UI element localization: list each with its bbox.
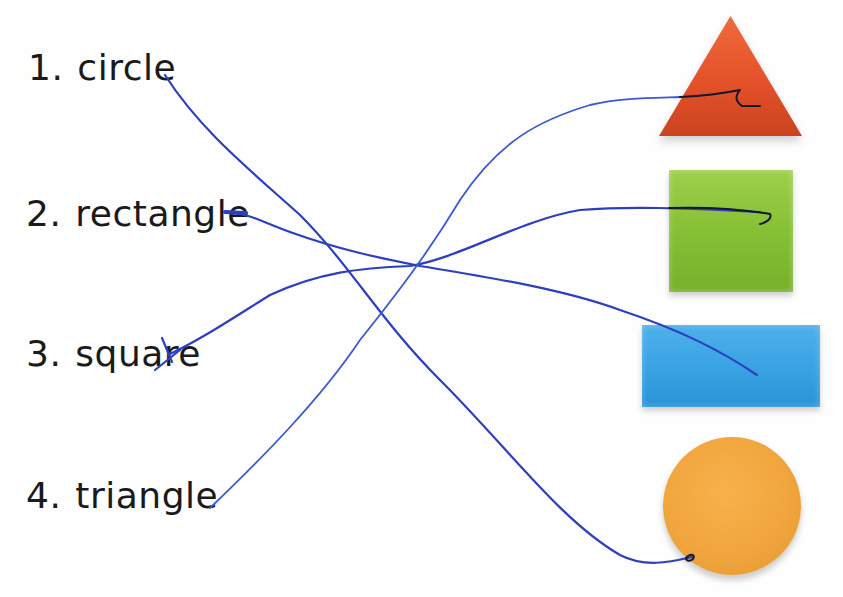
word-item-rectangle: 2.rectangle xyxy=(26,196,250,232)
item-number: 2. xyxy=(26,193,61,234)
triangle-shape xyxy=(659,16,802,136)
item-word: rectangle xyxy=(75,193,249,234)
matching-worksheet: 1.circle 2.rectangle 3.square 4.triangle xyxy=(0,0,843,597)
rectangle-shape xyxy=(642,325,820,407)
item-word: circle xyxy=(77,47,176,88)
word-item-triangle: 4.triangle xyxy=(26,478,218,514)
item-number: 1. xyxy=(28,47,63,88)
word-item-square: 3.square xyxy=(26,336,201,372)
circle-shape xyxy=(663,437,801,575)
item-word: square xyxy=(75,333,201,374)
word-item-circle: 1.circle xyxy=(28,50,176,86)
triangle-icon xyxy=(659,16,802,136)
square-shape xyxy=(669,170,793,292)
item-number: 4. xyxy=(26,475,61,516)
item-word: triangle xyxy=(75,475,218,516)
item-number: 3. xyxy=(26,333,61,374)
line-triangle xyxy=(210,97,680,508)
line-circle xyxy=(165,75,692,563)
